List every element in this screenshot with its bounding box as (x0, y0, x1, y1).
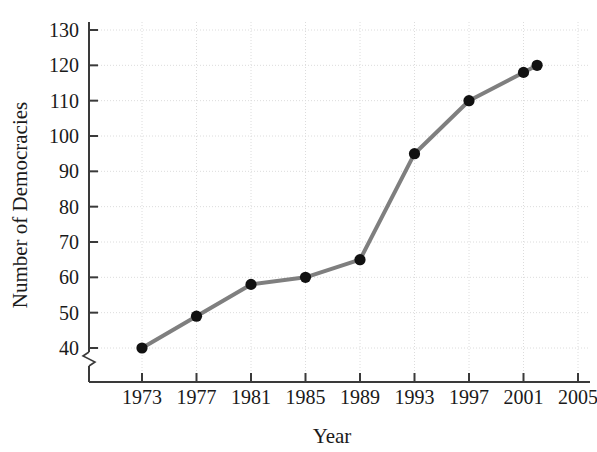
y-tick-label: 60 (59, 266, 79, 288)
x-tick-label: 1993 (395, 386, 435, 408)
data-point-marker (136, 342, 147, 353)
data-point-marker (518, 67, 529, 78)
data-point-marker (354, 254, 365, 265)
y-tick-labels: 405060708090100110120130 (49, 19, 79, 359)
data-point-marker (191, 311, 202, 322)
x-tick-label: 1981 (231, 386, 271, 408)
data-point-marker (245, 279, 256, 290)
y-tick-label: 100 (49, 125, 79, 147)
data-point-marker (532, 60, 543, 71)
data-point-marker (463, 95, 474, 106)
data-series-line (142, 65, 537, 348)
x-tick-label: 2005 (558, 386, 597, 408)
y-axis (89, 22, 98, 382)
y-tick-label: 40 (59, 337, 79, 359)
x-tick-label: 1997 (449, 386, 489, 408)
y-tick-label: 90 (59, 160, 79, 182)
x-tick-label: 1973 (122, 386, 162, 408)
x-axis (89, 373, 590, 382)
x-tick-label: 1985 (286, 386, 326, 408)
y-tick-label: 80 (59, 196, 79, 218)
y-tick-label: 50 (59, 302, 79, 324)
line-chart: 405060708090100110120130 197319771981198… (0, 0, 597, 452)
data-point-marker (300, 272, 311, 283)
y-tick-label: 120 (49, 54, 79, 76)
data-point-marker (409, 148, 420, 159)
y-tick-label: 70 (59, 231, 79, 253)
chart-canvas: 405060708090100110120130 197319771981198… (0, 0, 597, 452)
axis-break-symbol (83, 352, 95, 366)
x-tick-label: 1989 (340, 386, 380, 408)
y-tick-label: 130 (49, 19, 79, 41)
y-axis-title: Number of Democracies (8, 102, 32, 308)
y-tick-label: 110 (50, 90, 79, 112)
x-tick-label: 1977 (177, 386, 217, 408)
x-tick-label: 2001 (504, 386, 544, 408)
x-tick-labels: 197319771981198519891993199720012005 (122, 386, 597, 408)
x-axis-title: Year (313, 424, 352, 448)
